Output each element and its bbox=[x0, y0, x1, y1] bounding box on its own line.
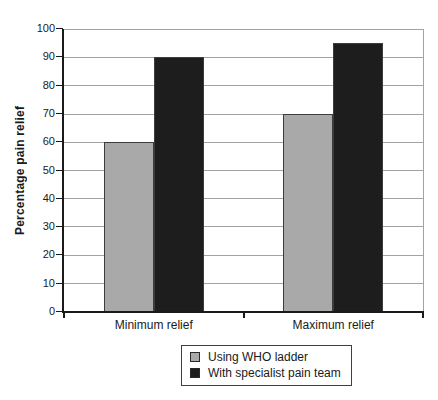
legend-label: With specialist pain team bbox=[208, 366, 341, 380]
y-tick-label: 0 bbox=[0, 305, 55, 318]
legend-color-swatch bbox=[190, 368, 200, 378]
bar bbox=[283, 114, 333, 311]
bar-group bbox=[244, 29, 424, 311]
plot-area bbox=[64, 29, 424, 311]
y-tick-label: 10 bbox=[0, 277, 55, 290]
y-tick-label: 80 bbox=[0, 79, 55, 92]
bar bbox=[104, 142, 154, 311]
x-axis-category-labels: Minimum reliefMaximum relief bbox=[64, 318, 423, 334]
bar-group bbox=[64, 29, 244, 311]
bar-groups bbox=[64, 29, 423, 311]
legend-item: With specialist pain team bbox=[190, 365, 341, 381]
legend-label: Using WHO ladder bbox=[208, 350, 308, 364]
bar bbox=[154, 57, 204, 311]
y-tick-label: 30 bbox=[0, 220, 55, 233]
bar-chart-figure: Percentage pain relief 01020304050607080… bbox=[0, 0, 438, 400]
y-tick-label: 70 bbox=[0, 107, 55, 120]
bar bbox=[333, 43, 383, 311]
x-category-label: Maximum relief bbox=[293, 318, 374, 332]
y-tick-label: 100 bbox=[0, 22, 55, 35]
y-tick-label: 60 bbox=[0, 135, 55, 148]
x-category-label: Minimum relief bbox=[115, 318, 193, 332]
legend-item: Using WHO ladder bbox=[190, 349, 341, 365]
y-tick-label: 50 bbox=[0, 164, 55, 177]
y-axis-tick-labels: 0102030405060708090100 bbox=[0, 29, 55, 312]
y-tick-label: 20 bbox=[0, 248, 55, 261]
legend: Using WHO ladderWith specialist pain tea… bbox=[181, 345, 352, 386]
x-axis-line bbox=[62, 311, 424, 313]
y-tick-label: 90 bbox=[0, 50, 55, 63]
legend-color-swatch bbox=[190, 352, 200, 362]
y-tick-label: 40 bbox=[0, 192, 55, 205]
